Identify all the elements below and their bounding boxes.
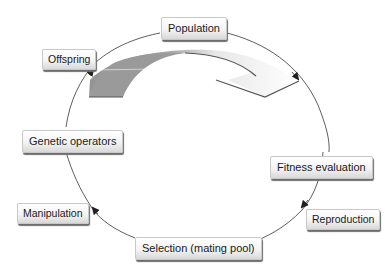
transition-label-reproduction: Reproduction	[306, 209, 380, 230]
stage-label: Genetic operators	[29, 135, 116, 147]
transition-label-offspring: Offspring	[42, 49, 96, 70]
stage-label: Selection (mating pool)	[142, 242, 255, 254]
arrow-genetic-to-population	[89, 70, 93, 75]
stage-fitness-evaluation: Fitness evaluation	[270, 156, 373, 179]
stage-population: Population	[161, 17, 227, 40]
stage-genetic-operators: Genetic operators	[22, 130, 123, 153]
transition-label-text: Manipulation	[23, 207, 83, 219]
transition-label-manipulation: Manipulation	[17, 203, 89, 224]
arc-selection-to-genetic	[66, 152, 135, 238]
transition-label-text: Reproduction	[312, 213, 374, 225]
big-curved-arrow	[89, 50, 299, 97]
stage-label: Fitness evaluation	[277, 161, 366, 173]
transition-label-text: Offspring	[48, 53, 90, 65]
stage-selection: Selection (mating pool)	[135, 237, 262, 260]
stage-label: Population	[168, 22, 220, 34]
